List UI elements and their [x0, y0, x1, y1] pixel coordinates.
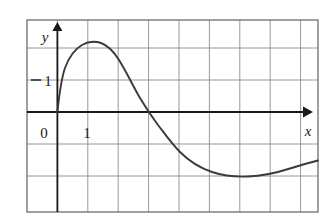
tick-label-x-1: 1 — [83, 125, 91, 141]
plot-background — [27, 20, 318, 212]
graph-canvas: y x 0 1 1 — [0, 0, 332, 222]
y-axis-label: y — [40, 29, 49, 45]
graph-figure: y x 0 1 1 — [0, 0, 332, 222]
tick-label-y-1: 1 — [44, 73, 52, 89]
tick-label-origin-0: 0 — [40, 125, 48, 141]
x-axis-label: x — [304, 123, 312, 139]
